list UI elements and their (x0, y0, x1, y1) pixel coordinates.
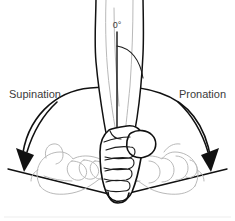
left-hand-thumb (45, 144, 63, 164)
right-hand-back-crease (164, 144, 180, 152)
pronation-label: Pronation (179, 88, 226, 100)
right-hand-knuckle-4 (149, 161, 160, 183)
supination-label: Supination (9, 88, 61, 100)
supination-pronation-diagram: 0° (0, 0, 235, 221)
diagram-canvas: 0° (0, 0, 235, 221)
pronation-arrow-head (201, 148, 219, 172)
right-hand-knuckle-2 (176, 156, 188, 180)
pronation-arrow (178, 102, 219, 172)
supination-arrow-head (16, 148, 34, 172)
neutral-angle-label: 0° (113, 20, 122, 30)
left-hand-finger-2 (79, 160, 98, 179)
supination-arrow (16, 102, 57, 172)
right-hand-knuckle-3 (162, 158, 174, 182)
pronation-arrow-shaft (178, 102, 208, 152)
center-hand-thumb (127, 131, 156, 158)
center-hand-neutral (100, 126, 156, 203)
